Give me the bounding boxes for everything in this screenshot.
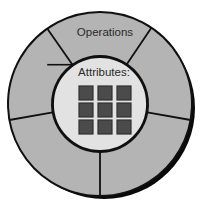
operations-label: Operations <box>77 26 134 38</box>
attribute-cell-r2c1 <box>79 103 93 117</box>
object-model-diagram: Operations Attributes: <box>0 0 211 209</box>
attribute-cell-r2c2 <box>98 103 112 117</box>
attributes-label: Attributes: <box>78 66 130 78</box>
attribute-grid <box>79 86 131 134</box>
attribute-cell-r1c3 <box>117 86 131 100</box>
attribute-cell-r2c3 <box>117 103 131 117</box>
diagram-canvas: Operations Attributes: <box>0 0 211 209</box>
attribute-cell-r3c2 <box>98 120 112 134</box>
attribute-cell-r3c1 <box>79 120 93 134</box>
attribute-cell-r3c3 <box>117 120 131 134</box>
attribute-cell-r1c1 <box>79 86 93 100</box>
attribute-cell-r1c2 <box>98 86 112 100</box>
